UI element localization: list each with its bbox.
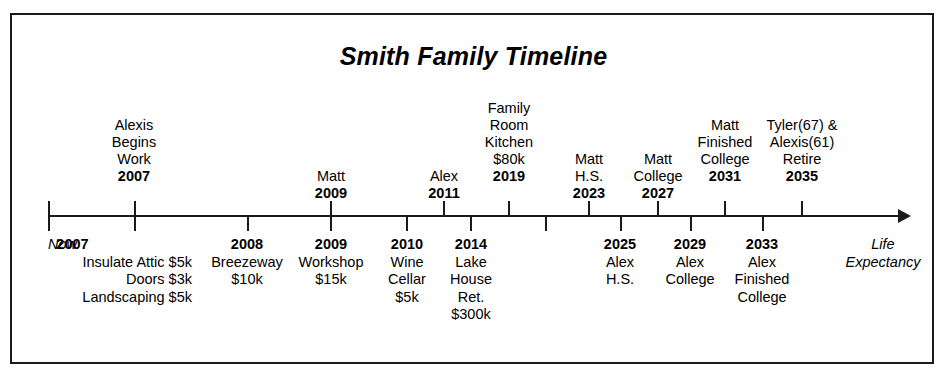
tick-mark-down-2008	[247, 216, 249, 231]
event-above-2009: Matt 2009	[281, 168, 381, 202]
event-line: Family	[459, 100, 559, 117]
event-above-2035: Tyler(67) & Alexis(61) Retire 2035	[742, 117, 862, 185]
event-line: Landscaping $5k	[0, 289, 192, 307]
tick-mark-down-2007	[134, 216, 136, 231]
event-year: 2035	[742, 168, 862, 185]
tick-mark-down-2033	[762, 216, 764, 231]
event-line: Retire	[742, 151, 862, 168]
event-line: Matt	[281, 168, 381, 185]
event-year: 2033	[712, 236, 812, 254]
axis-end-caption-line2: Expectancy	[838, 254, 928, 272]
event-year: 2011	[394, 185, 494, 202]
tick-mark-down-2025	[620, 216, 622, 231]
tick-mark-down-now	[48, 216, 50, 231]
event-line: Work	[84, 151, 184, 168]
tick-mark-start	[48, 201, 50, 216]
event-above-2007: Alexis Begins Work 2007	[84, 117, 184, 185]
timeline-figure: Smith Family Timeline Alexis Begins Work…	[0, 0, 947, 382]
event-below-2033: 2033 Alex Finished College	[712, 236, 812, 306]
event-below-2007: 2007 Insulate Attic $5k Doors $3k Landsc…	[0, 236, 192, 306]
chart-title: Smith Family Timeline	[0, 42, 947, 71]
axis-start-caption: Now	[48, 236, 77, 254]
tick-mark-down-2010	[406, 216, 408, 231]
tick-mark-up-2027	[657, 201, 659, 216]
tick-mark-down-2029	[690, 216, 692, 231]
event-year: 2014	[421, 236, 521, 254]
event-year: 2027	[608, 185, 708, 202]
event-line: Insulate Attic $5k	[0, 254, 192, 272]
axis-end-caption-line1: Life	[838, 236, 928, 254]
event-line: Ret.	[421, 289, 521, 307]
event-line: Alex	[712, 254, 812, 272]
event-line: Alexis	[84, 117, 184, 134]
event-below-2014: 2014 Lake House Ret. $300k	[421, 236, 521, 324]
tick-mark-up-2031	[724, 201, 726, 216]
event-line: Kitchen	[459, 134, 559, 151]
tick-mark-up-2019	[508, 201, 510, 216]
tick-mark-up-2009	[330, 201, 332, 216]
event-line: $300k	[421, 306, 521, 324]
tick-mark-up-2035	[801, 201, 803, 216]
axis-end-caption: Life Expectancy	[838, 236, 928, 271]
event-line: House	[421, 271, 521, 289]
event-line: Finished	[712, 271, 812, 289]
event-line: College	[712, 289, 812, 307]
tick-mark-up-2023	[588, 201, 590, 216]
tick-mark-down-2009	[330, 216, 332, 231]
event-line: Tyler(67) &	[742, 117, 862, 134]
event-year: 2007	[84, 168, 184, 185]
event-line: Begins	[84, 134, 184, 151]
tick-mark-down-2017	[545, 216, 547, 231]
tick-mark-down-2014	[470, 216, 472, 231]
tick-mark-up-2007	[134, 201, 136, 216]
event-year: 2007	[0, 236, 192, 254]
tick-mark-up-2011	[443, 201, 445, 216]
event-line: Room	[459, 117, 559, 134]
event-year: 2009	[281, 185, 381, 202]
timeline-axis-arrowhead	[898, 209, 911, 223]
event-line: Lake	[421, 254, 521, 272]
event-line: Alexis(61)	[742, 134, 862, 151]
event-line: Doors $3k	[0, 271, 192, 289]
timeline-axis-line	[48, 215, 900, 217]
